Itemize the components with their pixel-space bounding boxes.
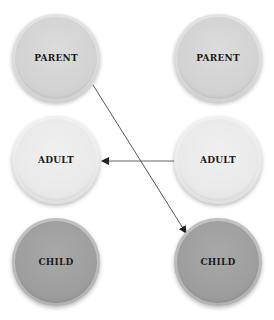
node-label: CHILD [200,257,235,267]
left-adult-node: ADULT [12,116,100,204]
node-label: ADULT [38,155,74,165]
node-label: ADULT [200,155,236,165]
node-label: PARENT [196,53,240,63]
left-parent-node: PARENT [12,14,100,102]
node-label: PARENT [34,53,78,63]
right-adult-node: ADULT [174,116,262,204]
left-child-node: CHILD [12,218,100,306]
right-child-node: CHILD [174,218,262,306]
right-parent-node: PARENT [174,14,262,102]
node-label: CHILD [38,257,73,267]
edge-parent-to-child [93,85,186,233]
